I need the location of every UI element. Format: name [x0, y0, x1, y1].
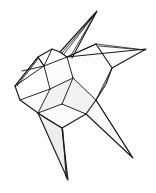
crease-line — [96, 68, 112, 100]
spike-right-wing-ridge — [99, 46, 144, 50]
facet-lower-right-tail — [86, 100, 133, 158]
drawing-canvas — [0, 0, 156, 193]
origami-figure — [0, 0, 156, 193]
facet-upper-left — [15, 57, 44, 86]
facet-group — [15, 11, 146, 180]
spike-top-fin-ridge — [64, 14, 95, 54]
